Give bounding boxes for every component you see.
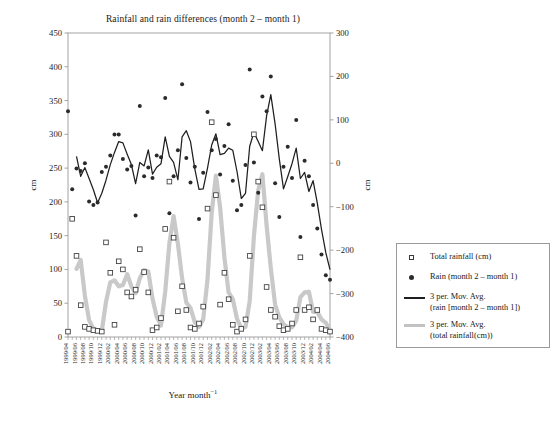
svg-text:1999/10: 1999/10: [87, 343, 94, 364]
legend-label: 3 per. Mov. Avg. (total rainfall(cm)): [430, 320, 493, 341]
legend-item-rainfall-moving-average[interactable]: 3 per. Mov. Avg. (total rainfall(cm)): [403, 320, 493, 341]
svg-text:−300: −300: [336, 289, 354, 299]
svg-text:2001/08: 2001/08: [180, 343, 187, 364]
svg-text:400: 400: [49, 62, 62, 72]
svg-text:2002/06: 2002/06: [223, 343, 230, 364]
svg-text:350: 350: [49, 96, 62, 106]
svg-text:450: 450: [49, 28, 62, 38]
svg-text:2003/02: 2003/02: [256, 343, 263, 364]
open-square-icon: [403, 252, 425, 263]
svg-text:−400: −400: [336, 332, 354, 342]
filled-dot-icon: [403, 272, 425, 283]
x-axis-label-sup: −1: [210, 388, 217, 395]
legend-label: Total rainfall (cm): [430, 252, 491, 263]
legend-item-total-rainfall[interactable]: Total rainfall (cm): [403, 252, 491, 263]
svg-text:2000/02: 2000/02: [104, 343, 111, 364]
svg-text:2003/10: 2003/10: [290, 343, 297, 364]
svg-text:2003/08: 2003/08: [282, 343, 289, 364]
svg-text:2002/10: 2002/10: [240, 343, 247, 364]
svg-text:2000/10: 2000/10: [138, 343, 145, 364]
legend-item-rain-difference[interactable]: Rain (month 2 – month 1): [403, 272, 517, 283]
svg-text:2001/12: 2001/12: [197, 343, 204, 364]
svg-text:0: 0: [58, 332, 62, 342]
svg-text:2001/02: 2001/02: [155, 343, 162, 364]
plot-area: 050100150200250300350400450−400−300−200−…: [0, 0, 558, 421]
svg-text:2003/06: 2003/06: [273, 343, 280, 364]
gray-line-icon: [403, 320, 425, 331]
svg-text:1999/06: 1999/06: [71, 343, 78, 364]
svg-text:2004/02: 2004/02: [307, 343, 314, 364]
svg-text:2000/08: 2000/08: [130, 343, 137, 364]
svg-text:2004/04: 2004/04: [316, 342, 323, 364]
x-axis-label: Year month−1: [118, 388, 268, 400]
svg-text:300: 300: [336, 28, 349, 38]
svg-text:2001/04: 2001/04: [163, 342, 170, 364]
svg-text:2003/12: 2003/12: [299, 343, 306, 364]
svg-text:−200: −200: [336, 245, 354, 255]
svg-text:2001/10: 2001/10: [189, 343, 196, 364]
svg-text:2000/12: 2000/12: [147, 343, 154, 364]
svg-text:100: 100: [49, 264, 62, 274]
svg-text:0: 0: [336, 158, 340, 168]
svg-text:50: 50: [53, 298, 62, 308]
svg-text:2004/06: 2004/06: [324, 343, 331, 364]
svg-text:1999/12: 1999/12: [96, 343, 103, 364]
svg-text:2002/08: 2002/08: [231, 343, 238, 364]
svg-text:300: 300: [49, 129, 62, 139]
svg-text:1999/08: 1999/08: [79, 343, 86, 364]
svg-text:2003/04: 2003/04: [265, 342, 272, 364]
svg-text:2000/06: 2000/06: [121, 343, 128, 364]
x-axis-label-text: Year month: [169, 390, 211, 400]
svg-text:2002/04: 2002/04: [214, 342, 221, 364]
legend-label: Rain (month 2 – month 1): [430, 272, 517, 283]
svg-text:150: 150: [49, 231, 62, 241]
svg-text:250: 250: [49, 163, 62, 173]
legend-item-rain-moving-average[interactable]: 3 per. Mov. Avg. (rain [month 2 – month …: [403, 292, 520, 313]
legend-label: 3 per. Mov. Avg. (rain [month 2 – month …: [430, 292, 520, 313]
svg-text:200: 200: [49, 197, 62, 207]
svg-text:2002/02: 2002/02: [206, 343, 213, 364]
dark-line-icon: [403, 292, 425, 303]
svg-text:2002/12: 2002/12: [248, 343, 255, 364]
svg-text:2001/06: 2001/06: [172, 343, 179, 364]
svg-text:2000/04: 2000/04: [113, 342, 120, 364]
svg-text:100: 100: [336, 115, 349, 125]
svg-text:−100: −100: [336, 202, 354, 212]
svg-text:1999/04: 1999/04: [62, 342, 69, 364]
svg-text:200: 200: [336, 71, 349, 81]
chart-figure: Rainfall and rain differences (month 2 –…: [0, 0, 558, 421]
chart-legend: Total rainfall (cm) Rain (month 2 – mont…: [396, 243, 550, 348]
